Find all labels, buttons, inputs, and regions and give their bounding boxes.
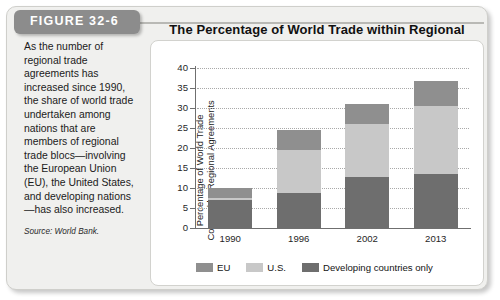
legend-item: EU [196, 262, 230, 273]
legend-swatch [196, 263, 213, 272]
figure-source: Source: World Bank. [24, 227, 136, 236]
caption-column: As the number of regional trade agreemen… [14, 40, 142, 270]
figure-caption: As the number of regional trade agreemen… [24, 40, 136, 217]
legend-label: Developing countries only [323, 262, 433, 273]
legend-item: Developing countries only [302, 262, 433, 273]
legend-label: EU [217, 262, 230, 273]
y-axis-title-text: Percentage of World Trade Covered by Reg… [194, 75, 217, 265]
figure-number-tab: FIGURE 32-6 [14, 10, 140, 34]
y-axis-title-line2: Covered by Regional Agreements [205, 100, 216, 240]
chart-legend: EUU.S.Developing countries only [196, 262, 443, 273]
legend-label: U.S. [267, 262, 286, 273]
legend-swatch [246, 263, 263, 272]
legend-swatch [302, 263, 319, 272]
y-axis-title: Percentage of World Trade Covered by Reg… [152, 55, 188, 235]
figure-screenshot: FIGURE 32-6 As the number of regional tr… [0, 0, 500, 300]
y-axis-title-line1: Percentage of World Trade [194, 114, 205, 226]
legend-item: U.S. [246, 262, 286, 273]
figure-number-label: FIGURE 32-6 [30, 14, 119, 28]
